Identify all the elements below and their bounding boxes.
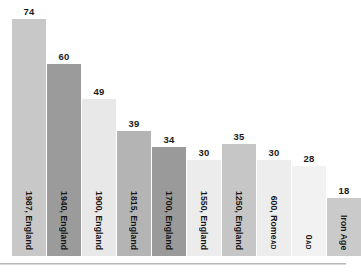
- bar-category-era: AD: [305, 240, 312, 250]
- bar-value-label: 30: [187, 147, 221, 158]
- bar-group: 28AD 0: [292, 0, 326, 258]
- bar-category-label: AD 600, Rome: [257, 196, 291, 250]
- bar-category-text: 0: [304, 235, 314, 240]
- bar-value-label: 49: [82, 86, 116, 97]
- plot-area: 741987, England601940, England491900, En…: [0, 0, 346, 258]
- bar-category-text: 1700, England: [164, 191, 174, 250]
- bar-category-era: AD: [270, 240, 277, 250]
- bar-category-label: 1940, England: [47, 191, 81, 250]
- bar-value-label: 35: [222, 131, 256, 142]
- bar-category-text: 1900, England: [94, 191, 104, 250]
- bar-category-label: 1815, England: [117, 191, 151, 250]
- bar-category-label: Iron Age: [327, 215, 361, 250]
- bar-category-text: 1815, England: [129, 191, 139, 250]
- bar-category-text: 600, Rome: [269, 196, 279, 240]
- bar-value-label: 30: [257, 147, 291, 158]
- bar-group: 741987, England: [12, 0, 46, 258]
- bar-category-text: 1250, England: [234, 191, 244, 250]
- bar-group: 301550, England: [187, 0, 221, 258]
- bar-group: 491900, England: [82, 0, 116, 258]
- bar-group: 18Iron Age: [327, 0, 361, 258]
- bar-group: 341700, England: [152, 0, 186, 258]
- bar-category-label: 1250, England: [222, 191, 256, 250]
- bar-group: 391815, England: [117, 0, 151, 258]
- bar-category-label: 1900, England: [82, 191, 116, 250]
- bar-category-text: 1940, England: [59, 191, 69, 250]
- bar-value-label: 34: [152, 134, 186, 145]
- bar-category-label: 1987, England: [12, 191, 46, 250]
- bar-group: 30AD 600, Rome: [257, 0, 291, 258]
- bar-value-label: 60: [47, 51, 81, 62]
- bar-category-text: 1550, England: [199, 191, 209, 250]
- bar-category-label: 1700, England: [152, 191, 186, 250]
- baseline-rule-shadow: [0, 264, 346, 265]
- bar-category-label: AD 0: [292, 235, 326, 250]
- bar-group: 351250, England: [222, 0, 256, 258]
- bar-category-text: 1987, England: [24, 191, 34, 250]
- bar-value-label: 74: [12, 6, 46, 17]
- bar-category-text: Iron Age: [339, 215, 349, 250]
- bar-value-label: 39: [117, 118, 151, 129]
- bar-value-label: 18: [327, 185, 361, 196]
- bar-group: 601940, England: [47, 0, 81, 258]
- bar-category-label: 1550, England: [187, 191, 221, 250]
- bar-value-label: 28: [292, 153, 326, 164]
